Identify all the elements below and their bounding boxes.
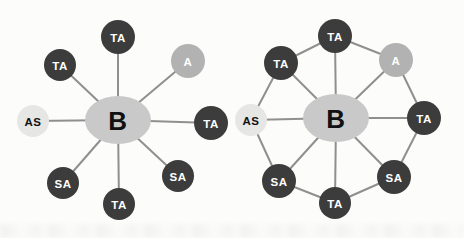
node-label-ta-bottom: TA — [111, 199, 127, 211]
node-label-a-topright: A — [392, 55, 401, 67]
node-label-sa-bottomright: SA — [169, 171, 186, 183]
node-label-ta-right: TA — [203, 118, 219, 130]
node-label-sa-bottomright: SA — [385, 172, 402, 184]
diagram-star-with-ring: BTAATASATASAASTA — [235, 19, 441, 219]
node-label-ta-top: TA — [110, 32, 126, 44]
figure-canvas: BTAATASATASAASTABTAATASATASAASTA — [0, 0, 464, 238]
node-label-ta-topleft: TA — [52, 60, 68, 72]
node-label-ta-topleft: TA — [273, 58, 289, 70]
node-label-sa-bottomleft: SA — [270, 176, 287, 188]
node-label-ta-bottom: TA — [327, 198, 343, 210]
node-label-as-left: AS — [24, 116, 41, 128]
diagram-star-no-ring: BTAATASATASAASTA — [17, 20, 228, 220]
node-label-as-left: AS — [242, 115, 259, 127]
node-label-sa-bottomleft: SA — [54, 178, 71, 190]
node-label-ta-top: TA — [327, 31, 343, 43]
node-label-ta-right: TA — [416, 113, 432, 125]
node-label-hub: B — [108, 106, 127, 136]
figure-wrap: BTAATASATASAASTABTAATASATASAASTA — [0, 0, 464, 238]
node-label-hub: B — [326, 104, 345, 134]
node-label-a-topright: A — [184, 56, 193, 68]
